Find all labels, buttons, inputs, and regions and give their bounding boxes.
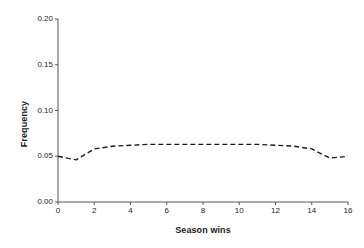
plot-area bbox=[0, 0, 364, 248]
chart-figure: Frequency 0.000.050.100.150.20 024681012… bbox=[0, 0, 364, 248]
data-series-line bbox=[58, 144, 348, 160]
axis-lines bbox=[58, 19, 348, 202]
